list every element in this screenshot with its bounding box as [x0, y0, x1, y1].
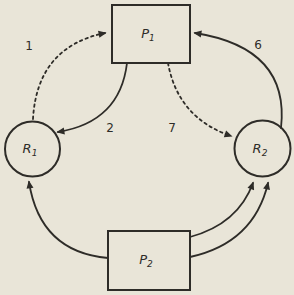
node-label-r2-sub: 2 — [262, 148, 268, 158]
node-label-p1-sub: 1 — [149, 33, 155, 43]
node-label-r2-main: R — [253, 141, 262, 156]
node-label-r1-sub: 1 — [32, 148, 38, 158]
node-label-r1-main: R — [23, 141, 32, 156]
scanned-diagram-page: P1 R1 R2 P2 1 2 6 7 — [0, 0, 294, 295]
paper-background — [0, 0, 294, 295]
node-label-p2-sub: 2 — [147, 259, 153, 269]
edge-label-1: 1 — [25, 39, 33, 53]
edge-label-2: 2 — [106, 121, 114, 135]
node-label-p1-main: P — [141, 26, 149, 41]
edge-label-7: 7 — [168, 121, 176, 135]
edge-label-6: 6 — [254, 38, 262, 52]
resource-allocation-diagram: P1 R1 R2 P2 1 2 6 7 — [0, 0, 294, 295]
node-label-p2-main: P — [139, 252, 147, 267]
